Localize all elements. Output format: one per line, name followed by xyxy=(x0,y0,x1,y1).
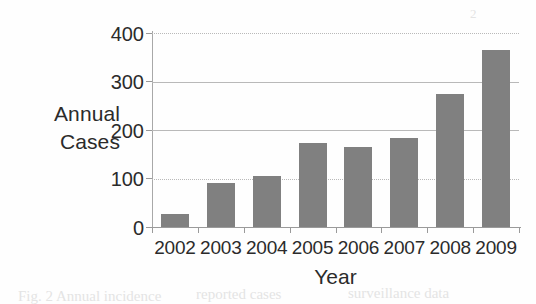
scan-artifact-top-right: 2 xyxy=(470,6,477,22)
y-tick-label-400: 400 xyxy=(100,24,144,44)
x-tick-label-2004: 2004 xyxy=(244,236,290,260)
scan-artifact-bottom-left: Fig. 2 Annual incidence xyxy=(18,288,161,304)
bar-2003 xyxy=(207,183,235,227)
bar-2008 xyxy=(436,94,464,227)
y-tick-label-0: 0 xyxy=(100,218,144,238)
bar-slot-2004 xyxy=(244,33,290,227)
bar-2002 xyxy=(161,214,189,227)
x-tick-mark-7 xyxy=(473,227,474,233)
y-tick-label-100: 100 xyxy=(100,169,144,189)
bar-slot-2005 xyxy=(290,33,336,227)
x-tick-label-2008: 2008 xyxy=(427,236,473,260)
x-tick-mark-5 xyxy=(381,227,382,233)
bar-chart-figure: Annual Cases 400 300 200 100 0 2002 xyxy=(0,0,536,304)
bar-2006 xyxy=(344,147,372,228)
x-tick-label-2002: 2002 xyxy=(152,236,198,260)
x-tick-mark-3 xyxy=(290,227,291,233)
x-tick-label-2005: 2005 xyxy=(290,236,336,260)
bar-2004 xyxy=(253,176,281,227)
x-tick-mark-0 xyxy=(152,227,153,233)
bar-slot-2003 xyxy=(198,33,244,227)
x-tick-label-2009: 2009 xyxy=(473,236,519,260)
x-tick-label-2007: 2007 xyxy=(381,236,427,260)
x-axis-title: Year xyxy=(152,264,519,290)
bar-2005 xyxy=(299,143,327,227)
x-tick-label-2003: 2003 xyxy=(198,236,244,260)
bar-slot-2002 xyxy=(152,33,198,227)
bar-2009 xyxy=(482,50,510,228)
x-tick-mark-4 xyxy=(336,227,337,233)
y-tick-label-200: 200 xyxy=(100,121,144,141)
x-tick-mark-8 xyxy=(519,227,520,233)
x-tick-mark-6 xyxy=(427,227,428,233)
bar-slot-2008 xyxy=(427,33,473,227)
y-tick-label-300: 300 xyxy=(100,72,144,92)
bar-2007 xyxy=(390,138,418,227)
bar-slot-2009 xyxy=(473,33,519,227)
x-tick-label-2006: 2006 xyxy=(336,236,382,260)
x-axis-tick-labels: 2002 2003 2004 2005 2006 2007 2008 2009 xyxy=(152,236,519,262)
plot-area xyxy=(152,33,519,227)
x-tick-mark-1 xyxy=(198,227,199,233)
bar-slot-2006 xyxy=(336,33,382,227)
bar-slot-2007 xyxy=(381,33,427,227)
x-tick-mark-2 xyxy=(244,227,245,233)
